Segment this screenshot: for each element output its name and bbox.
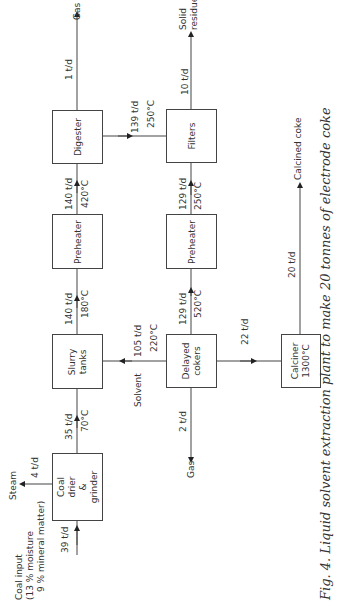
- cokers-line2: cokers: [192, 342, 203, 379]
- flow-4: 4 t/d: [30, 457, 41, 478]
- flow-140b: 140 t/d: [64, 178, 75, 210]
- solid-residue-line2: residue: [189, 0, 200, 30]
- flow-139: 139 t/d: [130, 101, 141, 133]
- preheater-2-box: Preheater: [166, 214, 217, 269]
- calciner-label: Calciner 1300°C: [290, 343, 312, 380]
- digester-label: Digester: [72, 118, 83, 156]
- coal-input-line2: (13 % moisture: [25, 501, 36, 600]
- delayed-cokers-label: Delayed cokers: [181, 342, 203, 379]
- gas-top-label: Gas: [72, 3, 83, 20]
- temp-220: 220°C: [149, 324, 160, 352]
- preheater-1-box: Preheater: [52, 214, 103, 269]
- gas-bottom-label: Gas: [186, 461, 197, 478]
- filters-box: Filters: [166, 109, 217, 163]
- coal-input-line3: 9 % mineral matter): [36, 501, 47, 600]
- preheater-2-label: Preheater: [186, 220, 197, 264]
- calcined-coke-label: Calcined coke: [293, 118, 304, 180]
- flow-39: 39 t/d: [60, 526, 71, 553]
- cokers-line1: Delayed: [181, 342, 192, 379]
- flow-20: 20 t/d: [287, 251, 298, 278]
- flow-10: 10 t/d: [180, 68, 191, 95]
- coal-input-label: Coal input (13 % moisture 9 % mineral ma…: [14, 501, 47, 600]
- coal-input-line1: Coal input: [14, 501, 25, 600]
- coal-drier-line4: grinder: [89, 471, 100, 504]
- steam-label: Steam: [8, 471, 19, 500]
- coal-drier-label: Coal drier & grinder: [56, 471, 100, 504]
- filters-label: Filters: [186, 123, 197, 150]
- delayed-cokers-box: Delayed cokers: [166, 334, 217, 388]
- flow-22: 22 t/d: [240, 318, 251, 345]
- flow-2: 2 t/d: [178, 411, 189, 432]
- coal-drier-line1: Coal: [56, 471, 67, 504]
- temp-520: 520°C: [193, 290, 204, 318]
- temp-250a: 250°C: [146, 100, 157, 128]
- slurry-line2: tanks: [78, 348, 89, 375]
- calciner-line2: 1300°C: [301, 343, 312, 380]
- calciner-line1: Calciner: [290, 343, 301, 380]
- solvent-label: Solvent: [133, 373, 144, 407]
- flow-140a: 140 t/d: [64, 293, 75, 325]
- flow-35: 35 t/d: [64, 413, 75, 440]
- digester-box: Digester: [52, 110, 103, 164]
- coal-drier-line3: &: [78, 471, 89, 504]
- coal-drier-line2: drier: [67, 471, 78, 504]
- flow-129b: 129 t/d: [178, 293, 189, 325]
- temp-420: 420°C: [80, 180, 91, 208]
- coal-drier-box: Coal drier & grinder: [52, 453, 103, 521]
- solid-residue-label: Solid residue: [178, 0, 200, 30]
- flow-105: 105 t/d: [133, 325, 144, 357]
- slurry-line1: Slurry: [67, 348, 78, 375]
- slurry-tanks-label: Slurry tanks: [67, 348, 89, 375]
- temp-250b: 250°C: [193, 182, 204, 210]
- flow-129a: 129 t/d: [178, 178, 189, 210]
- solid-residue-line1: Solid: [178, 0, 189, 30]
- flow-1: 1 t/d: [64, 59, 75, 80]
- calciner-box: Calciner 1300°C: [281, 334, 321, 388]
- temp-70: 70°C: [80, 410, 91, 432]
- slurry-tanks-box: Slurry tanks: [52, 334, 103, 389]
- temp-180: 180°C: [80, 290, 91, 318]
- preheater-1-label: Preheater: [72, 220, 83, 264]
- figure-caption: Fig. 4. Liquid solvent extraction plant …: [318, 107, 333, 600]
